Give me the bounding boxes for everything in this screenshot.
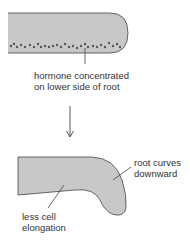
root-gravitropism-diagram xyxy=(0,0,190,243)
elongation-label: less cell elongation xyxy=(22,211,66,233)
hormone-label-line1: hormone concentrated xyxy=(34,70,129,81)
curve-label-line2: downward xyxy=(134,168,181,179)
hormone-label: hormone concentrated on lower side of ro… xyxy=(34,70,129,92)
curve-label: root curves downward xyxy=(134,157,181,179)
down-arrow xyxy=(67,106,74,137)
hormone-label-line2: on lower side of root xyxy=(34,81,129,92)
elongation-label-line2: elongation xyxy=(22,222,66,233)
curved-root xyxy=(18,157,126,215)
elongation-label-line1: less cell xyxy=(22,211,66,222)
curve-label-line1: root curves xyxy=(134,157,181,168)
